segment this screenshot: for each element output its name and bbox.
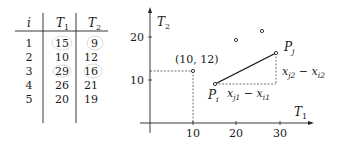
point-label-pj: Pj [283,40,295,56]
cell-t2: 12 [84,51,98,64]
header-t1: T1 [56,16,69,32]
point-label-10-12: (10, 12) [175,53,219,66]
header-t2: T2 [88,16,101,32]
cell-t2: 19 [84,93,98,106]
point-20-19 [234,38,237,41]
cell-t1: 10 [55,51,69,64]
header-i: i [27,16,31,30]
dx-annotation: xj1 − xi1 [227,87,270,102]
x-axis-arrow-icon [308,121,314,125]
y-axis-label: T2 [157,15,170,31]
figure: i T1 T2 1 15 9 2 10 12 3 29 16 4 26 21 5… [0,0,343,146]
cell-i: 5 [26,93,33,106]
cell-i: 3 [26,65,33,78]
cell-t1: 20 [55,93,69,106]
point-pi [213,82,216,85]
y-tick-label: 10 [130,74,144,87]
point-26-21 [260,29,263,32]
y-tick-label: 20 [130,31,144,44]
cell-i: 1 [26,37,33,50]
cell-t2: 9 [91,37,98,50]
cell-t1: 15 [55,37,69,50]
cell-t2: 21 [84,79,98,92]
dy-annotation: xj2 − xi2 [282,65,325,80]
y-axis-arrow-icon [148,7,152,13]
cell-t1: 26 [55,79,69,92]
x-axis-label: T1 [294,105,307,121]
data-table: i T1 T2 1 15 9 2 10 12 3 29 16 4 26 21 5… [15,13,108,123]
point-label-pi: Pi [207,88,219,104]
segment-pi-pj [215,53,276,84]
point-10-12 [191,69,194,72]
x-tick-label: 30 [273,127,287,140]
x-tick-label: 10 [186,127,200,140]
cell-i: 4 [26,79,33,92]
point-pj [274,51,277,54]
x-tick-label: 20 [229,127,243,140]
scatter-plot: 10 20 30 10 20 T1 T2 (10, 12) [130,7,325,140]
cell-i: 2 [26,51,33,64]
